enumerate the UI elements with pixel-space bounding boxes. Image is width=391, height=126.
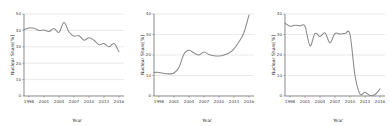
chart-svg-3: 1998200120042007201020132016 010203040 Y… (261, 0, 391, 126)
y-axis-title-2: Nuclear Share[%] (140, 35, 145, 75)
svg-text:10: 10 (276, 73, 282, 78)
svg-text:2010: 2010 (344, 99, 355, 104)
svg-text:2016: 2016 (244, 99, 255, 104)
svg-text:2001: 2001 (299, 99, 310, 104)
y-tick-labels-1: 01020304050 (16, 12, 22, 99)
svg-text:30: 30 (276, 32, 282, 37)
svg-text:10: 10 (146, 73, 152, 78)
svg-text:40: 40 (276, 12, 282, 17)
chart-svg-1: 1998200120042007201020132016 01020304050… (0, 0, 130, 126)
svg-text:2007: 2007 (69, 99, 80, 104)
y-axis-title-1: Nuclear Share[%] (10, 35, 15, 75)
svg-text:20: 20 (16, 61, 22, 66)
svg-text:1998: 1998 (154, 99, 165, 104)
data-series-line-1 (24, 23, 119, 52)
svg-text:20: 20 (276, 53, 282, 58)
svg-text:1998: 1998 (24, 99, 35, 104)
svg-text:2010: 2010 (214, 99, 225, 104)
x-tick-labels-3: 1998200120042007201020132016 (284, 99, 385, 104)
data-series-line-3 (285, 23, 380, 95)
svg-text:2016: 2016 (114, 99, 125, 104)
svg-text:0: 0 (18, 93, 21, 98)
svg-text:2004: 2004 (184, 99, 195, 104)
chart-panel-3: 1998200120042007201020132016 010203040 Y… (261, 0, 391, 126)
svg-text:2013: 2013 (99, 99, 110, 104)
svg-text:2013: 2013 (359, 99, 370, 104)
multi-panel-line-chart-figure: 1998200120042007201020132016 01020304050… (0, 0, 391, 126)
svg-text:10: 10 (16, 77, 22, 82)
axes-2 (153, 14, 255, 98)
svg-text:0: 0 (279, 93, 282, 98)
x-axis-title-1: Year (71, 118, 82, 123)
x-tick-labels-1: 1998200120042007201020132016 (24, 99, 125, 104)
svg-text:2016: 2016 (374, 99, 385, 104)
svg-text:2001: 2001 (169, 99, 180, 104)
svg-text:40: 40 (16, 28, 22, 33)
svg-text:40: 40 (146, 12, 152, 17)
svg-text:2007: 2007 (329, 99, 340, 104)
svg-text:2013: 2013 (229, 99, 240, 104)
x-tick-labels-2: 1998200120042007201020132016 (154, 99, 255, 104)
gridlines-3 (285, 14, 385, 75)
svg-text:50: 50 (16, 12, 22, 17)
svg-text:2004: 2004 (314, 99, 325, 104)
chart-svg-2: 1998200120042007201020132016 010203040 Y… (130, 0, 260, 126)
axes-1 (22, 14, 124, 98)
svg-text:30: 30 (16, 44, 22, 49)
gridlines-2 (154, 14, 254, 75)
svg-text:0: 0 (149, 93, 152, 98)
y-tick-labels-2: 010203040 (146, 12, 152, 99)
x-axis-title-3: Year (332, 118, 343, 123)
svg-text:2007: 2007 (199, 99, 210, 104)
y-tick-labels-3: 010203040 (276, 12, 282, 99)
svg-text:1998: 1998 (284, 99, 295, 104)
x-axis-title-2: Year (201, 118, 212, 123)
y-axis-title-3: Nuclear Share[%] (271, 35, 276, 75)
svg-text:2004: 2004 (54, 99, 65, 104)
svg-text:30: 30 (146, 32, 152, 37)
chart-panel-2: 1998200120042007201020132016 010203040 Y… (130, 0, 260, 126)
data-series-line-2 (154, 15, 249, 74)
svg-text:2001: 2001 (39, 99, 50, 104)
chart-panel-1: 1998200120042007201020132016 01020304050… (0, 0, 130, 126)
axes-3 (283, 14, 385, 98)
svg-text:2010: 2010 (84, 99, 95, 104)
svg-text:20: 20 (146, 53, 152, 58)
